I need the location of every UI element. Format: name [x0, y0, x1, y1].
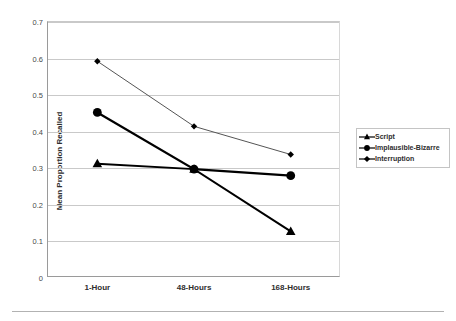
diamond-marker-icon: [359, 154, 375, 164]
legend-item-implausible-bizarre: Implausible-Bizarre: [359, 143, 447, 153]
y-tick-label: 0.1: [33, 237, 43, 246]
series-layer: [47, 21, 340, 277]
data-point-marker: [286, 171, 295, 180]
x-tick-label: 168-Hours: [271, 283, 310, 292]
legend-label-interruption: Interruption: [375, 154, 414, 164]
triangle-marker-icon: [359, 132, 375, 142]
data-point-marker: [94, 58, 100, 64]
data-point-marker: [288, 151, 294, 157]
data-point-marker: [191, 123, 197, 129]
legend-label-implausible-bizarre: Implausible-Bizarre: [375, 143, 440, 153]
legend-item-interruption: Interruption: [359, 154, 447, 164]
x-tick-label: 1-Hour: [84, 283, 110, 292]
x-tick-label: 48-Hours: [177, 283, 212, 292]
footer-divider: [12, 311, 444, 312]
chart-figure: Mean Proportion Recalled 0.70.60.50.40.3…: [0, 0, 456, 321]
y-tick-label: 0.2: [33, 200, 43, 209]
legend-item-script: Script: [359, 132, 447, 142]
data-point-marker: [286, 226, 296, 235]
data-point-marker: [93, 108, 102, 117]
y-tick-label: 0.4: [33, 127, 43, 136]
y-tick-label: 0.7: [33, 18, 43, 27]
y-tick-label: 0.5: [33, 91, 43, 100]
circle-marker-icon: [359, 143, 375, 153]
chart-legend: Script Implausible-Bizarre Interruption: [356, 128, 450, 168]
legend-label-script: Script: [375, 132, 395, 142]
y-tick-label: 0: [39, 274, 43, 283]
data-point-marker: [190, 165, 199, 174]
series-line-interruption: [97, 61, 290, 154]
y-tick-label: 0.6: [33, 54, 43, 63]
y-tick-label: 0.3: [33, 164, 43, 173]
